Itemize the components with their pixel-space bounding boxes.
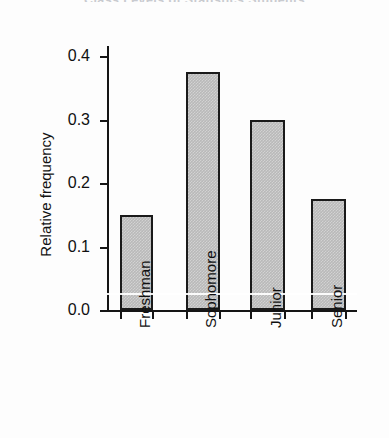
y-tick-3: 0.3 bbox=[100, 120, 108, 122]
y-axis-line bbox=[107, 46, 109, 312]
y-tick-2: 0.2 bbox=[100, 183, 108, 185]
y-axis-label: Relative frequency bbox=[37, 80, 54, 310]
x-tick-3 bbox=[219, 311, 221, 319]
bar-junior bbox=[250, 120, 285, 311]
y-tick-label-4: 0.4 bbox=[68, 47, 90, 65]
y-tick-4: 0.4 bbox=[100, 56, 108, 58]
x-tick-4 bbox=[250, 311, 252, 319]
chart-title: Class Levels of Statistics Students bbox=[0, 0, 389, 2]
x-category-label-senior: Senior bbox=[328, 285, 345, 328]
x-category-label-sophomore: Sophomore bbox=[202, 250, 219, 328]
y-tick-label-3: 0.3 bbox=[68, 110, 90, 128]
y-tick-label-2: 0.2 bbox=[68, 174, 90, 192]
y-tick-0: 0.0 bbox=[100, 310, 108, 312]
y-tick-1: 0.1 bbox=[100, 247, 108, 249]
x-tick-6 bbox=[311, 311, 313, 319]
x-tick-5 bbox=[284, 311, 286, 319]
x-tick-7 bbox=[345, 311, 347, 319]
x-category-label-freshman: Freshman bbox=[136, 260, 153, 328]
x-tick-0 bbox=[120, 311, 122, 319]
bar-chart-figure: Class Levels of Statistics Students Rela… bbox=[0, 0, 389, 438]
y-tick-label-0: 0.0 bbox=[68, 301, 90, 319]
x-tick-2 bbox=[186, 311, 188, 319]
x-category-label-junior: Junior bbox=[267, 287, 284, 328]
y-tick-label-1: 0.1 bbox=[68, 237, 90, 255]
